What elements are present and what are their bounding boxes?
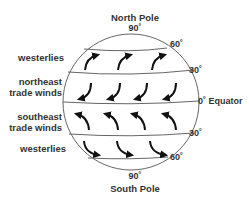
westerlies-south-label: westerlies [2,143,66,154]
latitude-line-30s [69,133,194,136]
ne-trade-label-line1: northeast [2,76,62,87]
north-pole-label: North Pole [100,12,170,23]
westerlies-south-arrows [84,141,165,155]
lat-30n-label: 30˚ [189,65,202,75]
westerlies-north-label: westerlies [2,52,64,63]
latitude-line-30n [68,70,194,74]
south-pole-label: South Pole [100,183,170,194]
lat-90s-label: 90˚ [120,171,150,181]
se-trade-label-line1: southeast [2,111,62,122]
se-trade-label-line2: trade winds [2,122,62,133]
equator-line [63,101,199,104]
equator-label: 0˚ Equator [198,96,243,106]
lat-60s-label: 60˚ [170,152,183,162]
se-trade-arrows [77,114,176,130]
ne-trade-arrows [80,83,176,99]
westerlies-north-arrows [85,55,164,70]
lat-30s-label: 30˚ [189,128,202,138]
latitude-line-60s [88,157,168,159]
lat-60n-label: 60˚ [170,39,183,49]
latitude-line-60n [84,48,167,51]
ne-trade-label-line2: trade winds [2,87,62,98]
lat-90n-label: 90˚ [120,23,150,33]
